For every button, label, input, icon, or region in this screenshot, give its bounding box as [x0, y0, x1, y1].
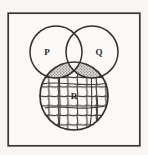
venn-diagram-canvas: P Q R — [0, 0, 148, 155]
set-r-label: R — [71, 91, 78, 101]
set-q-label: Q — [95, 47, 102, 57]
venn-diagram-figure: P Q R — [0, 0, 148, 155]
set-p-label: P — [44, 47, 50, 57]
